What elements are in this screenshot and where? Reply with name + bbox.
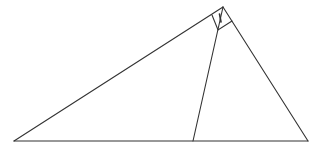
triangle-diagram — [0, 0, 319, 149]
cevian-line — [193, 7, 223, 141]
triangle-side-left — [14, 7, 223, 141]
triangle-side-right — [223, 7, 308, 141]
